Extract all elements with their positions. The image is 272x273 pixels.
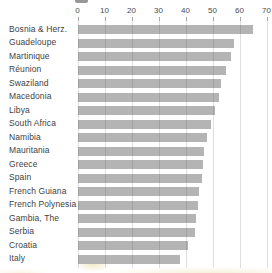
axis-tick-mark [159,17,160,21]
category-label: Mauritania [9,144,109,158]
axis-tick-label: 10 [94,5,116,16]
axis-tick-label: 20 [121,5,143,16]
axis-tick-label: 0 [67,5,89,16]
category-label: South Africa [9,117,109,131]
category-label: Gambia, The [9,212,109,226]
axis-tick-label: 30 [148,5,170,16]
category-label: Croatia [9,239,109,253]
bar-chart: 010203040506070 Bosnia & Herz.Guadeloupe… [0,0,271,273]
axis-tick-label: 70 [256,5,272,16]
axis-tick-mark [213,17,214,21]
grid-line [267,21,268,268]
category-label: French Polynesia [9,198,109,212]
grid-line [186,21,187,268]
category-label: Libya [9,104,109,118]
cropped-text-fragment [75,0,88,3]
category-label: Bosnia & Herz. [9,23,109,37]
axis-tick-label: 40 [175,5,197,16]
axis-tick-mark [78,17,79,21]
category-label: Macedonia [9,90,109,104]
category-label: Serbia [9,225,109,239]
category-label: Italy [9,252,109,266]
grid-line [132,21,133,268]
axis-tick-mark [186,17,187,21]
axis-tick-mark [132,17,133,21]
category-label: Greece [9,158,109,172]
grid-line [159,21,160,268]
axis-tick-mark [105,17,106,21]
category-label: Swaziland [9,77,109,91]
axis-tick-mark [240,17,241,21]
grid-line [240,21,241,268]
category-label: Réunion [9,63,109,77]
axis-tick-mark [267,17,268,21]
category-label: Martinique [9,50,109,64]
category-label: Spain [9,171,109,185]
category-label: Namibia [9,131,109,145]
category-label: French Guiana [9,185,109,199]
axis-tick-label: 50 [202,5,224,16]
grid-line [213,21,214,268]
axis-tick-label: 60 [229,5,251,16]
category-label: Guadeloupe [9,36,109,50]
